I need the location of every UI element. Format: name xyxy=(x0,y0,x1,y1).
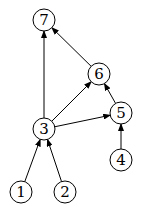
node-7: 7 xyxy=(33,9,55,31)
edge-3-to-6 xyxy=(52,82,91,121)
edge-1-to-3 xyxy=(25,139,40,181)
edge-2-to-3 xyxy=(47,139,61,181)
directed-graph: 1234567 xyxy=(0,0,141,211)
node-label: 2 xyxy=(60,183,70,201)
node-4: 4 xyxy=(110,149,132,171)
node-label: 3 xyxy=(39,120,49,138)
node-label: 1 xyxy=(16,183,26,201)
node-6: 6 xyxy=(88,63,110,85)
node-label: 7 xyxy=(39,11,49,29)
node-label: 6 xyxy=(94,65,104,83)
node-2: 2 xyxy=(54,181,76,203)
edge-6-to-7 xyxy=(52,28,91,67)
node-5: 5 xyxy=(110,102,132,124)
edge-5-to-6 xyxy=(104,84,115,104)
edge-3-to-5 xyxy=(55,115,110,127)
node-1: 1 xyxy=(10,181,32,203)
node-label: 5 xyxy=(116,104,126,122)
node-label: 4 xyxy=(116,151,126,169)
node-3: 3 xyxy=(33,118,55,140)
